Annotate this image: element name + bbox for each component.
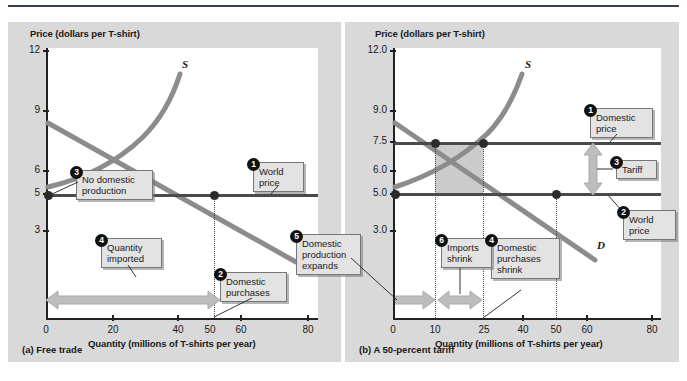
callout-bullet-6-b: 6 xyxy=(435,234,448,247)
callout-bullet-5-b: 5 xyxy=(290,230,303,243)
callout-bullet-3-a: 3 xyxy=(70,166,83,179)
callout-bullet-4-b: 4 xyxy=(485,234,498,247)
callout-bullet-3-b: 3 xyxy=(610,156,623,169)
callout-bullet-1-b: 1 xyxy=(584,104,597,117)
callout-bullet-4-a: 4 xyxy=(95,234,108,247)
callout-bullet-2-a: 2 xyxy=(214,268,227,281)
chart-panel-tariff: Price (dollars per T-shirt) 12.0 9.0 7.5… xyxy=(345,22,679,362)
panel-caption-a: (a) Free trade xyxy=(22,344,82,355)
callout-bullet-1-a: 1 xyxy=(247,158,260,171)
panel-caption-b: (b) A 50-percent tariff xyxy=(359,344,454,355)
callout-bullet-2-b: 2 xyxy=(617,206,630,219)
leader-imports-shrink-b xyxy=(345,22,679,362)
header-divider xyxy=(8,5,679,7)
